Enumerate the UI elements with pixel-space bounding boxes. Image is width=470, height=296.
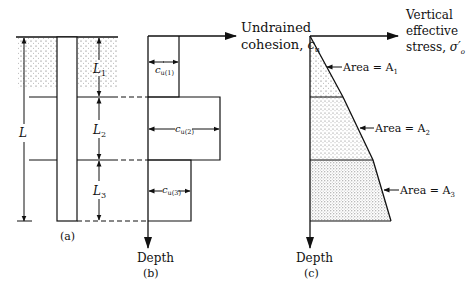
stress-axis-label-line2: effective: [406, 24, 458, 38]
cohesion-axis-label-line1: Undrained: [241, 20, 311, 35]
panel-c-caption: (c): [304, 267, 319, 280]
panel-b-undrained-cohesion: cu(1) cu(2) cu(3) Undrained cohesion, cu…: [137, 20, 320, 280]
stress-axis-label-line1: Vertical: [405, 8, 453, 22]
L2-label: L2: [92, 123, 106, 139]
cu2-label: cu(2): [175, 123, 194, 136]
L3-label: L3: [92, 184, 106, 200]
stress-axis-label-line3: stress, σ′o: [406, 40, 465, 56]
L-total-label: L: [18, 126, 27, 140]
depth-label-b: Depth: [137, 251, 174, 265]
cohesion-axis-label-line2: cohesion, cu: [241, 37, 320, 54]
panel-a-caption: (a): [60, 230, 75, 243]
depth-label-c: Depth: [296, 251, 333, 265]
panel-c-effective-stress: Area = A1 Area = A2 Area = A3 Vertical e…: [296, 8, 465, 280]
cu1-step: [148, 36, 179, 97]
area-A1-label: Area = A1: [342, 61, 398, 76]
cu1-label: cu(1): [155, 64, 174, 77]
pile-friction-diagram: L L1 L2 L3 (a) cu(1) cu(2) cu(3) Undrain…: [0, 0, 470, 296]
panel-b-caption: (b): [143, 267, 159, 280]
area-A3-label: Area = A3: [399, 184, 455, 199]
area-A2-label: Area = A2: [374, 122, 430, 137]
area-A3-region: [310, 160, 391, 221]
cu3-label: cu(3): [162, 184, 181, 197]
pile-shaft: [57, 37, 77, 221]
panel-a-pile-profile: L L1 L2 L3 (a): [16, 37, 148, 243]
soil-stipple-left: [17, 38, 57, 88]
